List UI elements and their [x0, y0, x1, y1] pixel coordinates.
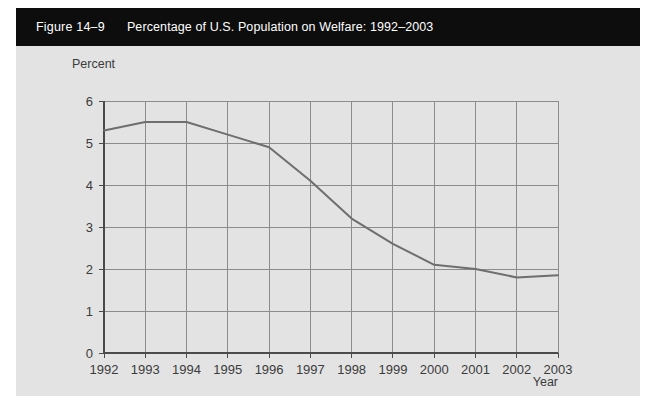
x-tick-label-1993: 1993 [131, 362, 160, 377]
chart-area: Percent 0123456 199219931994199519961997… [16, 46, 640, 396]
x-tick-label-1995: 1995 [213, 362, 242, 377]
x-tick-label-1992: 1992 [90, 362, 119, 377]
figure-panel: Figure 14–9 Percentage of U.S. Populatio… [16, 8, 640, 396]
y-tick-label-2: 2 [86, 262, 93, 277]
x-tick-label-1997: 1997 [296, 362, 325, 377]
x-tick-label-2000: 2000 [420, 362, 449, 377]
x-tick-label-2001: 2001 [461, 362, 490, 377]
figure-title: Percentage of U.S. Population on Welfare… [127, 20, 433, 34]
figure-header-bar: Figure 14–9 Percentage of U.S. Populatio… [16, 8, 640, 46]
y-tick-label-6: 6 [86, 94, 93, 109]
y-tick-label-5: 5 [86, 136, 93, 151]
figure-number: Figure 14–9 [36, 20, 105, 34]
y-tick-marks [99, 101, 104, 353]
line-chart: Percent 0123456 199219931994199519961997… [16, 46, 640, 396]
y-tick-label-1: 1 [86, 304, 93, 319]
y-tick-label-0: 0 [86, 346, 93, 361]
x-tick-label-1996: 1996 [255, 362, 284, 377]
x-tick-label-1998: 1998 [337, 362, 366, 377]
y-axis-unit-label-group: Percent [72, 57, 116, 71]
y-axis-unit-label: Percent [72, 57, 116, 71]
y-tick-label-4: 4 [86, 178, 93, 193]
y-tick-label-3: 3 [86, 220, 93, 235]
welfare-percentage-line [104, 122, 558, 277]
x-axis-tick-labels: 1992199319941995199619971998199920002001… [90, 362, 573, 377]
x-tick-marks [104, 353, 558, 358]
horizontal-gridlines [104, 101, 558, 311]
x-tick-label-1994: 1994 [172, 362, 201, 377]
y-axis-tick-labels: 0123456 [86, 94, 93, 361]
x-axis-name-label: Year [533, 375, 558, 389]
x-tick-label-2002: 2002 [502, 362, 531, 377]
x-tick-label-1999: 1999 [378, 362, 407, 377]
